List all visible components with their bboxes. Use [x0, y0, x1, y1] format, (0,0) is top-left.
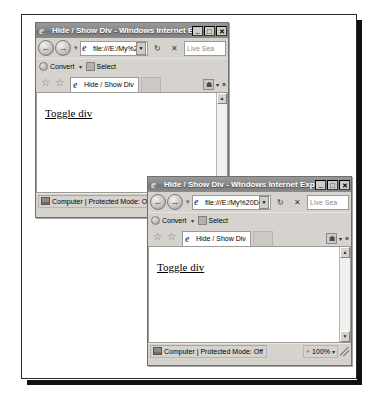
address-dropdown-icon[interactable] [136, 42, 146, 55]
zoom-level-pane[interactable]: ⌕ 100% ▾ [303, 345, 338, 358]
close-button[interactable] [216, 26, 227, 36]
stop-icon[interactable]: ✕ [289, 195, 305, 210]
address-bar[interactable]: file:///E:/My%20Drop [192, 195, 271, 210]
tab-hide-show-div[interactable]: Hide / Show Div [70, 77, 139, 92]
page-content-front: Toggle div Hello there! This is content … [149, 247, 339, 342]
scroll-up-icon[interactable] [217, 93, 227, 104]
convert-button[interactable]: Convert [39, 62, 75, 71]
convert-icon [151, 216, 160, 225]
convert-button[interactable]: Convert [151, 216, 187, 225]
command-toolbar-back: Convert ▾ Select [36, 58, 228, 73]
scroll-up-icon[interactable] [340, 247, 350, 258]
toolbar-overflow-icon[interactable]: » [222, 81, 226, 88]
add-to-favorites-icon[interactable] [164, 230, 178, 244]
caption-buttons-back [192, 26, 227, 36]
address-bar[interactable]: file:///E:/My%20Drop [80, 41, 148, 56]
nav-separator-icon: ▾ [72, 44, 80, 52]
titlebar-front[interactable]: Hide / Show Div - Windows Internet Explo… [148, 177, 351, 192]
select-icon [86, 62, 95, 71]
select-button[interactable]: Select [86, 62, 116, 71]
scroll-track[interactable] [340, 258, 350, 331]
zoom-caret-icon[interactable]: ▾ [332, 348, 335, 355]
tab-bar-back: Hide / Show Div ▾ » [36, 73, 228, 92]
ie-logo-icon [151, 180, 161, 190]
scroll-down-icon[interactable] [340, 331, 350, 342]
navigation-bar-front: ▾ file:///E:/My%20Drop ↻ ✕ Live Sea [148, 192, 351, 212]
select-label: Select [209, 217, 228, 224]
toggle-div-link[interactable]: Toggle div [157, 261, 204, 274]
address-page-icon [194, 198, 203, 207]
toggle-div-link[interactable]: Toggle div [45, 107, 92, 120]
convert-caret-icon[interactable]: ▾ [191, 217, 194, 224]
scroll-track[interactable] [217, 104, 227, 181]
search-input[interactable]: Live Sea [184, 41, 226, 56]
caption-buttons-front [315, 180, 350, 190]
tab-hide-show-div[interactable]: Hide / Show Div [182, 231, 251, 246]
navigation-bar-back: ▾ file:///E:/My%20Drop ↻ ✕ Live Sea [36, 38, 228, 58]
refresh-icon[interactable]: ↻ [272, 195, 288, 210]
command-toolbar-front: Convert ▾ Select [148, 212, 351, 227]
maximize-button[interactable] [204, 26, 215, 36]
zoom-level-label: 100% [312, 348, 330, 355]
address-dropdown-icon[interactable] [259, 196, 269, 209]
select-icon [198, 216, 207, 225]
convert-icon [39, 62, 48, 71]
security-zone-pane: Computer | Protected Mode: Off [38, 195, 155, 208]
computer-icon [153, 347, 162, 355]
refresh-icon[interactable]: ↻ [149, 41, 165, 56]
tab-bar-front: Hide / Show Div ▾ » [148, 227, 351, 246]
tab-toolbar-right: ▾ » [326, 233, 349, 244]
back-button[interactable] [150, 194, 166, 210]
page-tools-icon[interactable] [203, 79, 214, 90]
page-frame-shadow-bottom [27, 380, 362, 385]
window-title-back: Hide / Show Div - Windows Internet Explo… [52, 26, 192, 35]
browser-window-front[interactable]: Hide / Show Div - Windows Internet Explo… [147, 176, 352, 366]
titlebar-back[interactable]: Hide / Show Div - Windows Internet Explo… [36, 23, 228, 38]
forward-button[interactable] [55, 40, 71, 56]
back-button[interactable] [38, 40, 54, 56]
magnifier-icon: ⌕ [306, 347, 310, 355]
computer-icon [41, 197, 50, 205]
address-value: file:///E:/My%20Drop [93, 44, 136, 53]
close-button[interactable] [339, 180, 350, 190]
page-tools-caret-icon[interactable]: ▾ [216, 81, 219, 88]
convert-caret-icon[interactable]: ▾ [79, 63, 82, 70]
convert-label: Convert [50, 63, 75, 70]
tab-page-icon [73, 81, 82, 90]
page-tools-caret-icon[interactable]: ▾ [339, 235, 342, 242]
tab-label: Hide / Show Div [196, 234, 246, 244]
convert-label: Convert [162, 217, 187, 224]
tab-label: Hide / Show Div [84, 80, 134, 90]
stop-icon[interactable]: ✕ [166, 41, 182, 56]
page-tools-icon[interactable] [326, 233, 337, 244]
search-input[interactable]: Live Sea [307, 195, 349, 210]
select-label: Select [97, 63, 116, 70]
security-zone-pane: Computer | Protected Mode: Off [150, 345, 267, 358]
window-title-front: Hide / Show Div - Windows Internet Explo… [164, 180, 315, 189]
add-to-favorites-icon[interactable] [52, 76, 66, 90]
maximize-button[interactable] [327, 180, 338, 190]
new-tab-button[interactable] [253, 231, 273, 246]
document-area-front: Toggle div Hello there! This is content … [148, 246, 351, 343]
select-button[interactable]: Select [198, 216, 228, 225]
security-zone-label: Computer | Protected Mode: Off [52, 198, 151, 205]
address-page-icon [82, 44, 91, 53]
resize-grip-icon[interactable] [340, 347, 349, 356]
address-value: file:///E:/My%20Drop [205, 198, 259, 207]
status-bar-front: Computer | Protected Mode: Off ⌕ 100% ▾ [148, 343, 351, 358]
tab-page-icon [185, 235, 194, 244]
favorites-center-icon[interactable] [150, 230, 164, 244]
toolbar-overflow-icon[interactable]: » [345, 235, 349, 242]
nav-separator-icon: ▾ [184, 198, 192, 206]
new-tab-button[interactable] [141, 77, 161, 92]
tab-toolbar-right: ▾ » [203, 79, 226, 90]
favorites-center-icon[interactable] [38, 76, 52, 90]
security-zone-label: Computer | Protected Mode: Off [164, 348, 263, 355]
minimize-button[interactable] [192, 26, 203, 36]
ie-logo-icon [39, 26, 49, 36]
page-frame-shadow-right [357, 20, 362, 385]
forward-button[interactable] [167, 194, 183, 210]
minimize-button[interactable] [315, 180, 326, 190]
vertical-scrollbar-front[interactable] [339, 247, 351, 342]
